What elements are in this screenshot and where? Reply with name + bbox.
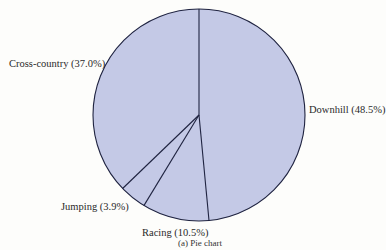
chart-caption: (a) Pie chart bbox=[178, 238, 222, 248]
pie-chart bbox=[0, 0, 386, 250]
label-racing: Racing (10.5%) bbox=[142, 227, 208, 238]
label-downhill: Downhill (48.5%) bbox=[309, 104, 385, 115]
label-jumping: Jumping (3.9%) bbox=[61, 201, 129, 212]
label-cross-country: Cross-country (37.0%) bbox=[9, 58, 105, 69]
